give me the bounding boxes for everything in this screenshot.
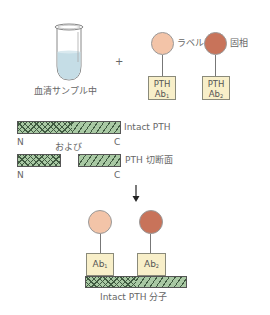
- plus-sign: +: [115, 57, 123, 67]
- intact-pth-label: Intact PTH: [124, 123, 170, 132]
- intact-pth-c-terminal: [72, 121, 121, 134]
- label-caption: ラベル: [177, 39, 204, 48]
- n-terminal-label: N: [17, 171, 24, 180]
- n-terminal-label: N: [17, 138, 24, 147]
- intact-pth-n-terminal: [17, 121, 72, 134]
- antibody-stem: [215, 55, 216, 76]
- arrow-down-icon: [131, 185, 141, 203]
- antibody-stem: [100, 234, 101, 254]
- solid-phase-circle: [204, 32, 227, 55]
- c-terminal-fragment: [78, 154, 121, 167]
- result-pth-n-terminal: [85, 276, 136, 288]
- fragment-label: PTH 切断面: [125, 156, 173, 165]
- test-tube-icon: [52, 22, 86, 82]
- c-terminal-label: C: [114, 138, 120, 147]
- label-circle: [88, 210, 112, 234]
- antibody-stem: [162, 55, 163, 76]
- result-ab1-box: Ab1: [86, 253, 114, 276]
- sample-label: 血清サンプル中: [34, 87, 97, 96]
- result-pth-c-terminal: [136, 276, 187, 288]
- antibody-box-ab1: PTH Ab1: [148, 76, 176, 100]
- solid-phase-circle: [139, 210, 163, 234]
- n-terminal-fragment: [17, 154, 61, 167]
- label-circle: [151, 32, 174, 55]
- antibody-box-ab2: PTH Ab2: [202, 76, 230, 100]
- result-ab2-box: Ab2: [137, 253, 166, 276]
- and-label: および: [55, 143, 82, 152]
- result-caption: Intact PTH 分子: [100, 293, 167, 302]
- solid-phase-caption: 固相: [230, 39, 248, 48]
- c-terminal-label: C: [114, 171, 120, 180]
- antibody-stem: [150, 234, 151, 254]
